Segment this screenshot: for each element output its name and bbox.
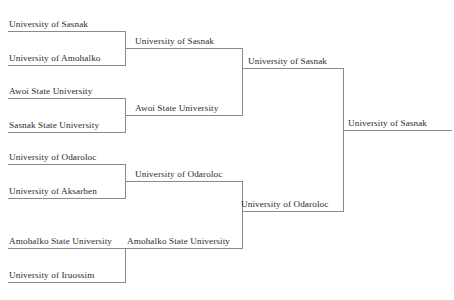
round1-match3-team1: University of Odaroloc xyxy=(9,153,96,162)
round1-match4-team2-underline xyxy=(8,282,126,283)
round1-match1-team2: University of Amohalko xyxy=(9,54,101,63)
round1-match3-team2-underline xyxy=(8,198,126,199)
round2-match2-connector xyxy=(242,181,243,249)
round2-match1-team1-underline xyxy=(125,48,243,49)
final-team2: University of Odaroloc xyxy=(241,200,328,209)
round2-match1-team2-underline xyxy=(125,115,243,116)
round1-match2-team1-underline xyxy=(8,98,126,99)
round1-match4-connector xyxy=(125,248,126,283)
round1-match3-team2: University of Aksarben xyxy=(9,187,97,196)
round2-match1-team2: Awoi State University xyxy=(135,104,218,113)
round1-match1-team1-underline xyxy=(8,31,126,32)
champion-underline xyxy=(343,130,452,131)
round1-match2-team2-underline xyxy=(8,132,126,133)
round2-match1-team1: University of Sasnak xyxy=(135,37,214,46)
round2-match2-team2-underline xyxy=(125,248,243,249)
final-team1: University of Sasnak xyxy=(248,57,327,66)
round1-match4-team1: Amohalko State University xyxy=(9,237,112,246)
round1-match1-team1: University of Sasnak xyxy=(9,20,88,29)
round2-match1-connector xyxy=(242,48,243,116)
round2-match2-team2: Amohalko State University xyxy=(127,237,230,246)
round2-match2-team1: University of Odaroloc xyxy=(135,170,222,179)
round1-match2-team1: Awoi State University xyxy=(9,87,92,96)
tournament-bracket: University of Sasnak University of Amoha… xyxy=(0,0,454,300)
final-connector xyxy=(343,68,344,212)
final-team2-underline xyxy=(242,211,344,212)
final-team1-underline xyxy=(242,68,344,69)
round1-match4-team2: University of Iruossim xyxy=(9,271,94,280)
round1-match1-team2-underline xyxy=(8,65,126,66)
round1-match3-team1-underline xyxy=(8,164,126,165)
champion-label: University of Sasnak xyxy=(348,119,427,128)
round1-match4-team1-underline xyxy=(8,248,126,249)
round2-match2-team1-underline xyxy=(125,181,243,182)
round1-match2-team2: Sasnak State University xyxy=(9,121,99,130)
